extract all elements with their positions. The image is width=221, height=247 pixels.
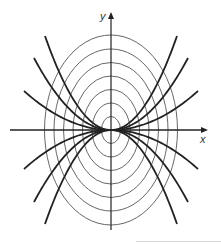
parabola-8 (34, 130, 111, 202)
divider (136, 241, 221, 242)
y-axis-label: y (99, 10, 107, 22)
parabola-11 (111, 130, 188, 202)
parabola-2 (34, 58, 111, 130)
parabola-5 (111, 58, 188, 130)
y-axis-arrow-icon (108, 12, 114, 19)
orthogonal-trajectories-diagram: x y (0, 0, 221, 247)
x-axis-label: x (199, 133, 206, 145)
